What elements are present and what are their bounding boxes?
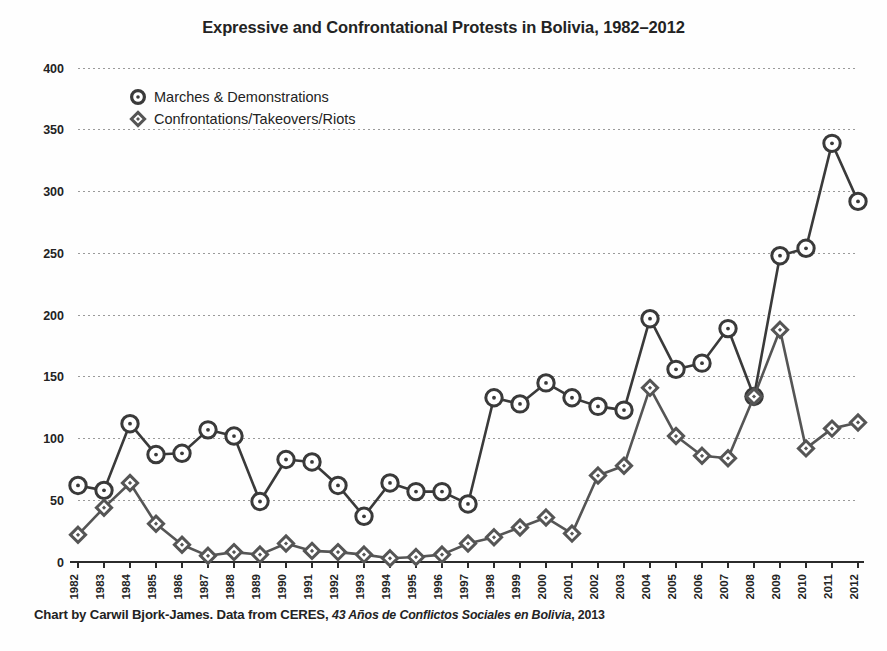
- legend-item-label: Confrontations/Takeovers/Riots: [154, 111, 356, 127]
- x-axis-tick-label: 1986: [172, 574, 184, 600]
- data-point-marker-center: [232, 434, 236, 438]
- x-axis-tick-label: 2009: [770, 574, 782, 600]
- x-axis-tick-label: 2005: [666, 573, 678, 599]
- data-point-marker-center: [492, 396, 496, 400]
- chart-plot-area: 050100150200250300350400 198219831984198…: [0, 0, 887, 651]
- data-point-marker-center: [804, 246, 808, 250]
- data-point-marker-center: [206, 428, 210, 432]
- caption-prefix: Chart by Carwil Bjork-James. Data from C…: [34, 607, 332, 622]
- x-axis-tick-label: 2008: [744, 573, 756, 599]
- y-axis-tick-labels: 050100150200250300350400: [43, 62, 64, 570]
- x-axis-tick-label: 2002: [588, 574, 600, 600]
- diamond-marker-icon: [131, 112, 144, 125]
- caption-source-title: 43 Años de Conflictos Sociales en Bolivi…: [332, 608, 571, 622]
- x-axis-tick-label: 2012: [848, 574, 860, 600]
- data-point-marker-center: [726, 327, 730, 331]
- chart-caption: Chart by Carwil Bjork-James. Data from C…: [34, 607, 864, 622]
- data-point-marker-center: [700, 361, 704, 365]
- series-2: [70, 322, 865, 566]
- data-point-marker-center: [648, 317, 652, 321]
- x-axis-tick-label: 1984: [120, 573, 132, 599]
- x-axis-tick-label: 2010: [796, 574, 808, 600]
- x-axis-tick-label: 1994: [380, 573, 392, 599]
- x-axis-line: [70, 562, 864, 568]
- y-axis-tick-label: 200: [43, 309, 64, 323]
- y-axis-tick-label: 400: [43, 62, 64, 76]
- y-axis-tick-label: 50: [50, 494, 64, 508]
- series-line: [78, 143, 858, 516]
- x-axis-tick-label: 2011: [822, 573, 834, 599]
- data-point-marker-center: [830, 141, 834, 145]
- x-axis-tick-label: 1989: [250, 574, 262, 600]
- x-axis-tick-label: 2001: [562, 573, 574, 599]
- data-point-marker-center: [544, 381, 548, 385]
- x-axis-tick-label: 1991: [302, 573, 314, 599]
- data-point-marker-center: [336, 484, 340, 488]
- data-point-marker-center: [180, 451, 184, 455]
- x-axis-tick-label: 1990: [276, 574, 288, 600]
- y-axis-tick-label: 250: [43, 247, 64, 261]
- data-point-marker-center: [518, 402, 522, 406]
- x-axis-tick-label: 2004: [640, 573, 652, 599]
- data-point-marker-center: [128, 422, 132, 426]
- data-point-marker-center: [440, 490, 444, 494]
- data-point-marker-center: [466, 502, 470, 506]
- data-point-marker-center: [154, 453, 158, 457]
- circle-marker-icon: [132, 91, 145, 104]
- data-point-marker-center: [284, 458, 288, 462]
- series-lines-group: [70, 135, 866, 566]
- x-axis-tick-label: 1993: [354, 574, 366, 600]
- y-axis-tick-label: 300: [43, 185, 64, 199]
- legend-item-label: Marches & Demonstrations: [154, 89, 329, 105]
- legend-item-1[interactable]: Marches & Demonstrations: [132, 89, 329, 105]
- data-point-marker-center: [258, 500, 262, 504]
- data-point-marker-center: [596, 404, 600, 408]
- data-point-marker-center: [674, 367, 678, 371]
- x-axis-tick-label: 1995: [406, 573, 418, 599]
- x-axis-tick-label: 1999: [510, 574, 522, 600]
- data-point-marker-center: [414, 490, 418, 494]
- legend-item-2[interactable]: Confrontations/Takeovers/Riots: [131, 111, 355, 127]
- data-point-marker-center: [622, 408, 626, 412]
- data-point-marker-center: [310, 460, 314, 464]
- y-axis-tick-label: 150: [43, 370, 64, 384]
- x-axis-tick-label: 1997: [458, 574, 470, 600]
- data-point-marker-center: [102, 488, 106, 492]
- y-axis-tick-label: 350: [43, 123, 64, 137]
- x-axis-tick-label: 1987: [198, 574, 210, 600]
- x-axis-tick-label: 1992: [328, 574, 340, 600]
- y-axis-tick-label: 100: [43, 432, 64, 446]
- x-axis-tick-labels: 1982198319841985198619871988198919901991…: [68, 573, 860, 599]
- caption-separator: ,: [571, 608, 578, 622]
- series-1: [70, 135, 866, 524]
- x-axis-tick-label: 1996: [432, 574, 444, 600]
- data-point-marker-center: [778, 254, 782, 258]
- data-point-marker-center: [362, 514, 366, 518]
- x-axis-tick-label: 2006: [692, 574, 704, 600]
- chart-legend: Marches & DemonstrationsConfrontations/T…: [131, 89, 355, 127]
- gridlines-group: [78, 68, 858, 500]
- data-point-marker-center: [570, 396, 574, 400]
- x-axis-tick-label: 1998: [484, 573, 496, 599]
- x-axis-tick-label: 2000: [536, 574, 548, 600]
- data-point-marker-center: [388, 481, 392, 485]
- y-axis-tick-label: 0: [57, 556, 64, 570]
- x-axis-tick-label: 2007: [718, 574, 730, 600]
- x-axis-tick-label: 2003: [614, 574, 626, 600]
- data-point-marker-center: [856, 199, 860, 203]
- x-axis-tick-label: 1985: [146, 573, 158, 599]
- data-point-marker-center: [76, 484, 80, 488]
- chart-figure: Expressive and Confrontational Protests …: [0, 0, 887, 651]
- x-axis-tick-label: 1988: [224, 573, 236, 599]
- x-axis-tick-label: 1982: [68, 574, 80, 600]
- x-axis-tick-label: 1983: [94, 574, 106, 600]
- caption-year: 2013: [578, 608, 605, 622]
